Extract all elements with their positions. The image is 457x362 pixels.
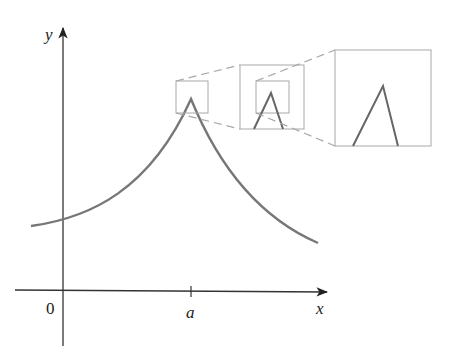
zoom-box-3 — [335, 50, 431, 146]
origin-label: 0 — [46, 299, 55, 318]
zoom-box-1 — [176, 81, 208, 113]
cusp-zoom-diagram: y x 0 a — [0, 0, 457, 362]
x-axis — [15, 290, 327, 292]
y-axis-label: y — [43, 25, 53, 44]
tick-a-label: a — [186, 303, 195, 322]
x-axis-label: x — [315, 299, 324, 318]
